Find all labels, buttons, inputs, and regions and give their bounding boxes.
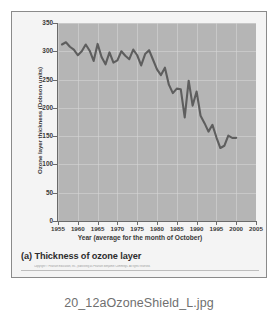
ozone-chart: Ozone layer thickness (Dobson units) 350… [12, 12, 268, 244]
y-axis-tick-label: 50 [27, 190, 53, 196]
x-axis-tick-mark [157, 221, 158, 225]
x-axis-tick-mark [58, 221, 59, 225]
y-axis-tick-label: 350 [27, 20, 53, 26]
x-axis-tick-mark [98, 221, 99, 225]
x-axis-tick-label: 2005 [244, 225, 268, 232]
y-axis-tick-label: 150 [27, 133, 53, 139]
y-axis-tick-mark [53, 136, 57, 137]
y-axis-tick-mark [53, 108, 57, 109]
x-axis-tick-mark [197, 221, 198, 225]
x-axis-tick-mark [256, 221, 257, 225]
x-axis-tick-mark [78, 221, 79, 225]
y-axis-tick-mark [53, 80, 57, 81]
y-axis-line [57, 23, 58, 222]
y-axis-tick-mark [53, 193, 57, 194]
y-axis-tick-label: 200 [27, 105, 53, 111]
y-axis-tick-label: 0 [27, 218, 53, 224]
y-axis-tick-label: 250 [27, 77, 53, 83]
y-axis-tick-label: 300 [27, 48, 53, 54]
y-axis-tick-mark [53, 23, 57, 24]
y-axis-tick-mark [53, 51, 57, 52]
x-axis-tick-mark [137, 221, 138, 225]
y-axis-tick-label: 100 [27, 161, 53, 167]
y-axis-title: Ozone layer thickness (Dobson units) [36, 41, 43, 201]
caption-divider [21, 270, 259, 271]
filename-label: 20_12aOzoneShield_L.jpg [0, 296, 278, 310]
x-axis-tick-mark [236, 221, 237, 225]
ozone-line-series [58, 23, 256, 221]
x-axis-tick-mark [216, 221, 217, 225]
plot-area [58, 23, 256, 221]
figure-frame: Ozone layer thickness (Dobson units) 350… [11, 11, 267, 278]
screenshot-root: Ozone layer thickness (Dobson units) 350… [0, 0, 278, 331]
y-axis-tick-mark [53, 164, 57, 165]
x-axis-tick-mark [177, 221, 178, 225]
figure-caption: (a) Thickness of ozone layer [21, 251, 141, 261]
y-axis-tick-mark [53, 221, 57, 222]
x-axis-title: Year (average for the month of October) [12, 234, 268, 241]
copyright-notice: Copyright © Pearson Education, Inc., pub… [34, 265, 224, 268]
x-axis-tick-mark [117, 221, 118, 225]
